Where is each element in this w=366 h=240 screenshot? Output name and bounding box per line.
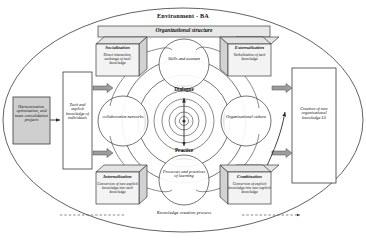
block-arrow-left-upper bbox=[93, 84, 113, 93]
organizational-structure-bar bbox=[98, 26, 270, 37]
petal-right-circle bbox=[221, 96, 271, 146]
externalization-cube-shape bbox=[220, 37, 279, 76]
petal-left-circle bbox=[98, 96, 148, 146]
petal-bottom-circle bbox=[159, 155, 209, 205]
block-arrow-right-upper bbox=[272, 84, 292, 93]
diagram-vector bbox=[0, 0, 366, 240]
block-arrow-left-lower bbox=[93, 149, 113, 158]
block-arrow-right-lower bbox=[272, 149, 292, 158]
internalization-cube-shape bbox=[96, 165, 147, 204]
socialization-cube-shape bbox=[96, 37, 147, 76]
left-inner-panel-shape bbox=[63, 72, 92, 169]
combination-cube-shape bbox=[220, 165, 279, 204]
petal-top-circle bbox=[159, 39, 209, 89]
left-outer-panel-shape bbox=[13, 97, 50, 144]
diagram-canvas: Environment - BA Organizational structur… bbox=[0, 0, 366, 240]
right-outer-panel-shape bbox=[292, 68, 336, 183]
